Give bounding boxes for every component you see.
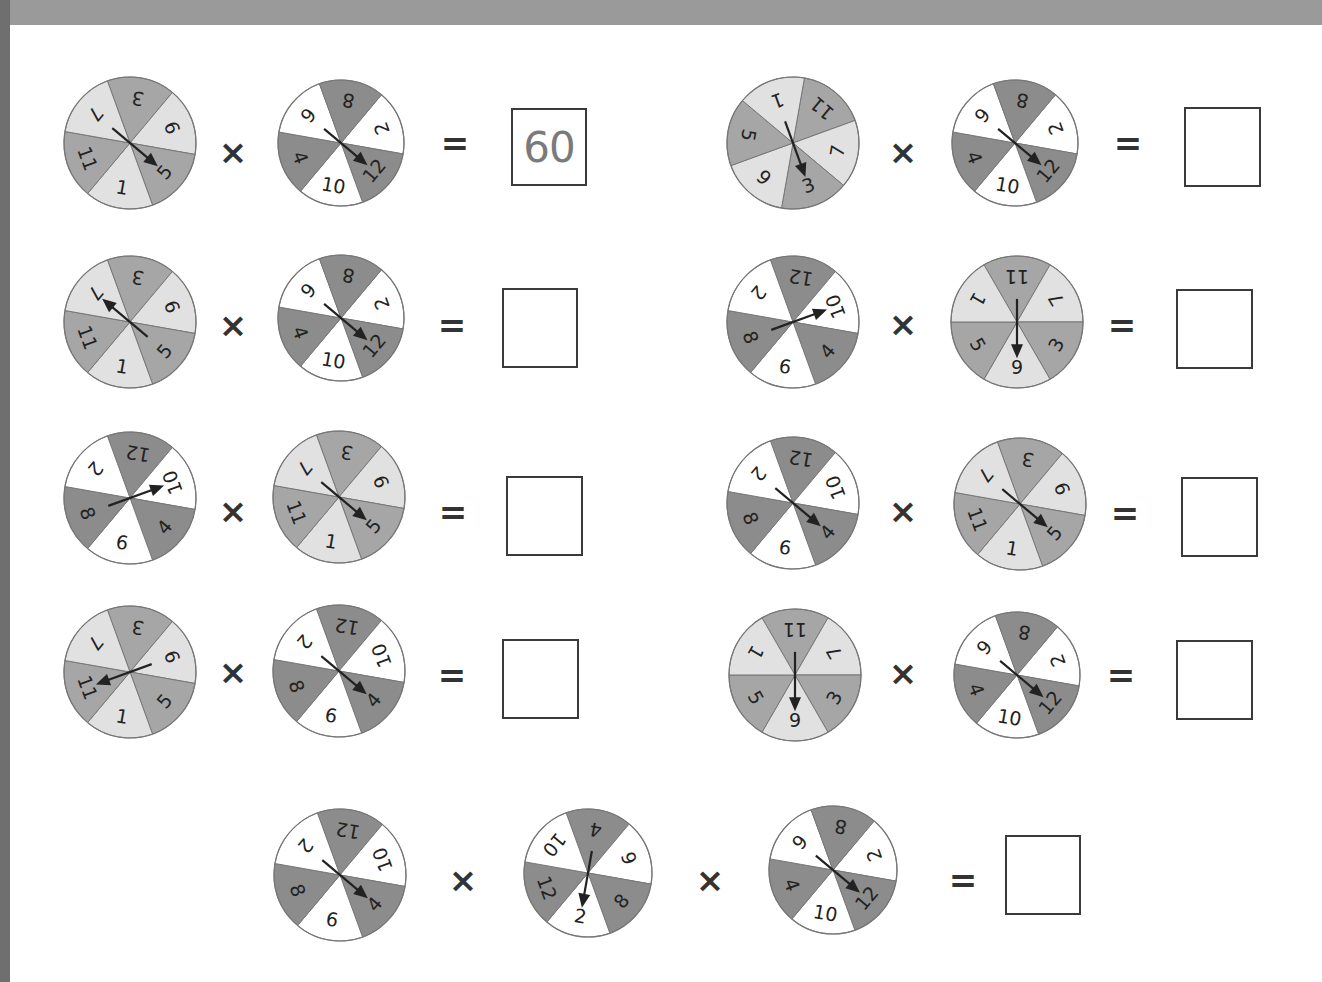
spinner: 1173951: [723, 73, 863, 213]
spinner: 3951117: [60, 252, 200, 392]
spinner-label: 10: [320, 347, 348, 373]
times-icon: ×: [219, 308, 248, 342]
spinner: 3951117: [950, 434, 1090, 574]
spinner-label: 12: [124, 441, 152, 467]
times-icon: ×: [219, 135, 248, 169]
times-icon: ×: [696, 863, 725, 897]
answer-box[interactable]: [502, 639, 579, 719]
answer-box[interactable]: [506, 476, 583, 556]
spinner: 3951117: [269, 427, 409, 567]
spinner-label: 9: [789, 709, 801, 731]
equals-icon: =: [439, 495, 468, 529]
answer-value: 60: [523, 123, 574, 172]
equals-icon: =: [441, 126, 470, 160]
spinner-label: 10: [812, 900, 840, 926]
spinner: 21210468: [950, 608, 1084, 742]
equals-icon: =: [438, 308, 467, 342]
answer-box[interactable]: [502, 288, 578, 368]
equals-icon: =: [949, 863, 978, 897]
spinner: 3951117: [60, 602, 200, 742]
answer-box[interactable]: [1176, 289, 1253, 369]
times-icon: ×: [889, 307, 918, 341]
spinner-label: 12: [787, 446, 815, 472]
spinner: 1173951: [725, 605, 865, 745]
spinner-label: 12: [334, 818, 362, 844]
spinner: 12104682: [60, 428, 200, 568]
answer-box[interactable]: [1176, 640, 1253, 720]
equals-icon: =: [438, 658, 467, 692]
spinner: 12104682: [270, 805, 410, 945]
times-icon: ×: [889, 656, 918, 690]
spinner-label: 11: [783, 619, 807, 641]
spinner-label: 10: [994, 172, 1022, 198]
spinner: 12104682: [723, 433, 863, 573]
times-icon: ×: [889, 494, 918, 528]
spinner: 21210468: [765, 802, 901, 938]
equals-icon: =: [1107, 658, 1136, 692]
answer-box[interactable]: 60: [511, 108, 587, 186]
equals-icon: =: [1108, 308, 1137, 342]
spinner: 3951117: [60, 73, 200, 213]
equals-icon: =: [1114, 126, 1143, 160]
spinner-label: 10: [320, 172, 348, 198]
left-strip: [0, 0, 10, 982]
times-icon: ×: [219, 494, 248, 528]
answer-box[interactable]: [1005, 835, 1081, 915]
top-bar: [0, 0, 1322, 25]
spinner-label: 12: [787, 265, 815, 291]
times-icon: ×: [449, 863, 478, 897]
spinner: 1173951: [947, 252, 1087, 392]
spinner-label: 12: [333, 614, 361, 640]
answer-box[interactable]: [1184, 107, 1261, 187]
equals-icon: =: [1111, 496, 1140, 530]
times-icon: ×: [219, 655, 248, 689]
spinner: 12104682: [723, 252, 863, 392]
spinner-label: 10: [996, 704, 1024, 730]
spinner: 12104682: [269, 601, 409, 741]
spinner: 21210468: [274, 76, 408, 210]
answer-box[interactable]: [1181, 477, 1258, 557]
spinner: 21210468: [274, 251, 408, 385]
times-icon: ×: [889, 135, 918, 169]
spinner: 46821210: [520, 805, 656, 941]
spinner: 21210468: [948, 76, 1082, 210]
spinner-label: 9: [1011, 356, 1023, 378]
spinner-label: 11: [1005, 266, 1029, 288]
